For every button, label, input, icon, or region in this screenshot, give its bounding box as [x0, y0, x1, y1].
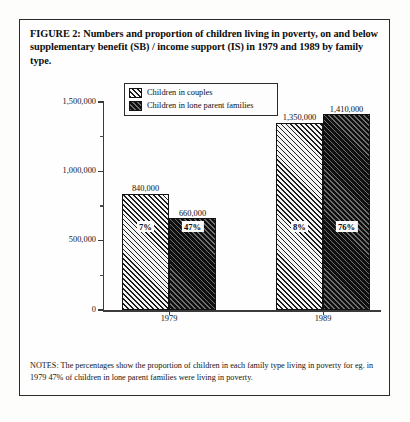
bar-1989-lone-parent: 1,410,00076%	[323, 114, 370, 310]
y-axis-tick-minor	[100, 275, 104, 276]
bar-percent-label: 76%	[335, 221, 357, 232]
y-axis-tick-label: 0	[26, 305, 96, 314]
legend-item-label: Children in lone parent families	[147, 101, 254, 110]
legend-item: Children in couples	[129, 88, 273, 98]
y-axis-tick-label: 500,000	[26, 235, 96, 244]
chart-legend: Children in couplesChildren in lone pare…	[124, 83, 278, 116]
bar-1989-couples: 1,350,0008%	[276, 123, 323, 310]
legend-swatch-icon	[129, 88, 142, 98]
legend-item: Children in lone parent families	[129, 101, 273, 111]
bar-1979-couples: 840,0007%	[122, 194, 169, 310]
y-axis-tick-minor	[100, 136, 104, 137]
y-axis-tick-major	[98, 309, 104, 310]
figure-notes: NOTES: The percentages show the proporti…	[30, 360, 380, 383]
y-axis-tick-major	[98, 240, 104, 241]
y-axis-tick-minor	[100, 205, 104, 206]
legend-item-label: Children in couples	[147, 88, 213, 97]
bar-value-label: 1,350,000	[283, 113, 317, 122]
y-axis-tick-label: 1,000,000	[26, 166, 96, 175]
bar-value-label: 1,410,000	[330, 105, 364, 114]
bar-value-label: 840,000	[132, 184, 159, 193]
bar-percent-label: 7%	[137, 221, 155, 232]
y-axis-tick-label: 1,500,000	[26, 97, 96, 106]
y-axis-tick-major	[98, 101, 104, 102]
figure-frame: FIGURE 2: Numbers and proportion of chil…	[19, 19, 390, 396]
x-axis-label-1979: 1979	[161, 314, 178, 323]
x-axis-line	[103, 310, 381, 312]
y-axis-labels: 0500,0001,000,0001,500,000	[20, 80, 96, 320]
x-axis-label-1989: 1989	[315, 314, 332, 323]
bar-value-label: 660,000	[179, 209, 206, 218]
figure-title: FIGURE 2: Numbers and proportion of chil…	[30, 27, 380, 67]
bar-percent-label: 8%	[291, 221, 309, 232]
chart-plot-area: 0500,0001,000,0001,500,000 840,0007%660,…	[20, 80, 391, 352]
y-axis-tick-major	[98, 171, 104, 172]
legend-swatch-icon	[129, 101, 142, 111]
bar-percent-label: 47%	[181, 221, 203, 232]
bar-1979-lone-parent: 660,00047%	[169, 218, 216, 310]
